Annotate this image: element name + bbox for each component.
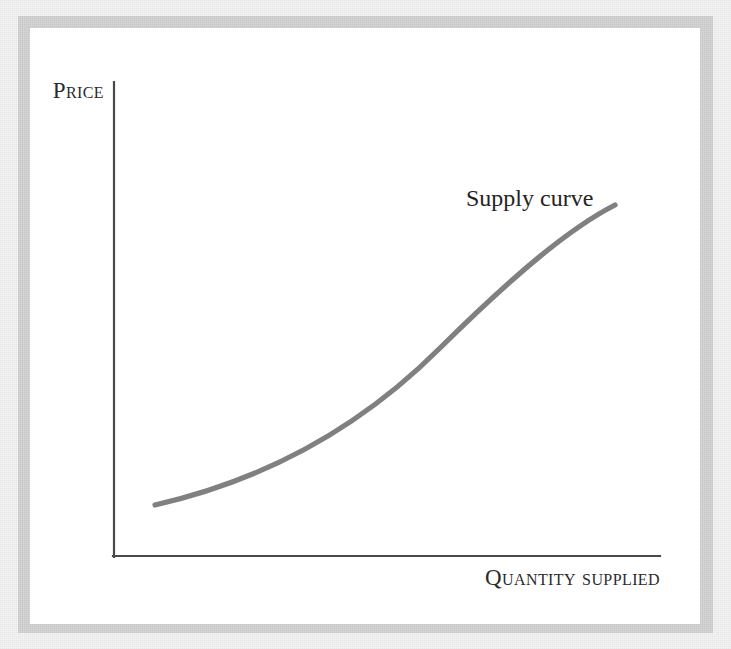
- y-axis-label: Price: [0, 78, 104, 104]
- supply-curve-annotation: Supply curve: [466, 185, 593, 212]
- supply-curve-plot: [0, 0, 731, 649]
- supply-curve: [155, 205, 615, 505]
- figure-outer-frame: Price Quantity supplied Supply curve: [0, 0, 731, 649]
- x-axis-label: Quantity supplied: [380, 565, 660, 591]
